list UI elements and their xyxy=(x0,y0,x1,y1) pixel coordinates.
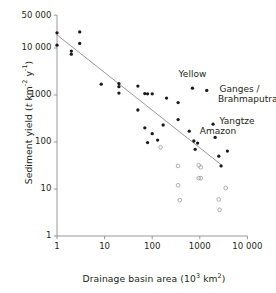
data-point-filled xyxy=(194,148,197,151)
data-point-filled xyxy=(196,141,199,144)
data-point-filled xyxy=(226,149,229,152)
data-point-filled xyxy=(211,122,214,125)
x-axis-title: Drainage basin area (103 km2) xyxy=(48,273,260,284)
data-point-filled xyxy=(188,130,191,133)
data-point-filled xyxy=(70,52,73,55)
data-point-filled xyxy=(219,164,222,167)
y-axis-title: Sediment yield (t km-2 y-1) xyxy=(23,33,34,213)
annotation-label: Brahmaputra xyxy=(218,94,276,105)
data-point-filled xyxy=(146,141,149,144)
y-axis-title-text: Sediment yield (t km-2 y-1) xyxy=(23,61,34,185)
x-tick-label: 1000 xyxy=(175,241,225,251)
data-point-open xyxy=(176,183,180,187)
x-tick-label: 10 xyxy=(80,241,130,251)
annotation-label: Yellow xyxy=(152,69,232,80)
data-point-filled xyxy=(151,92,154,95)
data-point-filled xyxy=(165,96,168,99)
data-point-filled xyxy=(117,82,120,85)
trend-line xyxy=(57,35,221,165)
data-point-filled xyxy=(156,138,159,141)
data-point-filled xyxy=(162,123,165,126)
x-tick-label: 1 xyxy=(32,241,82,251)
data-point-filled xyxy=(117,85,120,88)
sediment-yield-scatter-figure: 50 00010 0001000100101 110100100010 000 … xyxy=(0,0,276,293)
data-point-filled xyxy=(146,92,149,95)
annotation-label: Amazon xyxy=(200,126,236,137)
data-point-open xyxy=(176,164,180,168)
data-point-open xyxy=(178,198,182,202)
data-point-filled xyxy=(136,108,139,111)
data-points-open xyxy=(159,145,228,211)
data-point-filled xyxy=(78,42,81,45)
y-tick-label: 1 xyxy=(0,230,52,240)
annotation-label: Yangtze xyxy=(220,116,255,127)
x-tick-label: 10 000 xyxy=(222,241,272,251)
data-point-filled xyxy=(205,89,208,92)
data-point-open xyxy=(217,198,221,202)
data-point-filled xyxy=(55,43,58,46)
data-point-filled xyxy=(176,101,179,104)
data-point-filled xyxy=(78,30,81,33)
x-tick-label: 100 xyxy=(127,241,177,251)
data-point-filled xyxy=(100,83,103,86)
data-point-filled xyxy=(176,118,179,121)
data-point-open xyxy=(218,208,222,212)
data-point-filled xyxy=(136,84,139,87)
data-point-filled xyxy=(55,31,58,34)
data-point-filled xyxy=(192,139,195,142)
data-point-filled xyxy=(117,91,120,94)
data-point-filled xyxy=(151,132,154,135)
data-point-filled xyxy=(70,49,73,52)
data-point-filled xyxy=(191,86,194,89)
x-axis-title-text: Drainage basin area (103 km2) xyxy=(83,273,226,284)
data-point-open xyxy=(224,186,228,190)
data-points-filled xyxy=(55,30,229,167)
y-tick-label: 50 000 xyxy=(0,10,52,20)
data-point-filled xyxy=(143,126,146,129)
data-point-filled xyxy=(217,154,220,157)
data-point-open xyxy=(159,145,163,149)
